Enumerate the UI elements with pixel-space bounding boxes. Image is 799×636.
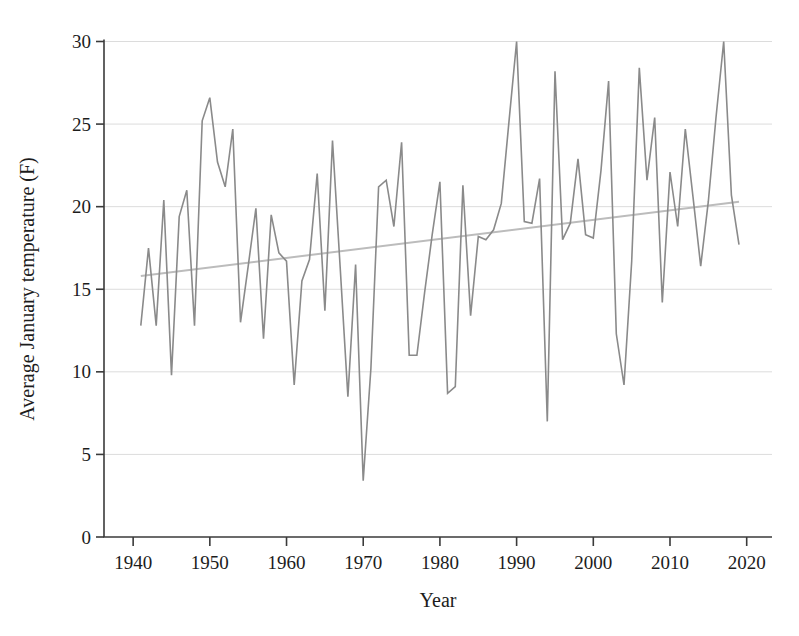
y-axis-title: Average January temperature (F) [16, 157, 39, 420]
temperature-series-line [141, 42, 739, 481]
axes [103, 40, 772, 538]
x-tick-label-1940: 1940 [114, 552, 152, 573]
x-tick-label-2020: 2020 [728, 552, 766, 573]
y-tick-label-15: 15 [72, 279, 91, 300]
x-tick-label-2010: 2010 [651, 552, 689, 573]
x-tick-label-1980: 1980 [421, 552, 459, 573]
x-tick-label-1970: 1970 [344, 552, 382, 573]
y-tick-label-5: 5 [82, 444, 92, 465]
x-tick-label-2000: 2000 [574, 552, 612, 573]
x-tick-label-1960: 1960 [268, 552, 306, 573]
y-tick-label-10: 10 [72, 361, 91, 382]
trend-line [141, 202, 739, 276]
y-tick-label-20: 20 [72, 196, 91, 217]
x-tick-label-1950: 1950 [191, 552, 229, 573]
y-tick-label-25: 25 [72, 114, 91, 135]
axis-ticks [96, 42, 747, 547]
y-tick-label-30: 30 [72, 31, 91, 52]
x-axis-title: Year [420, 589, 457, 611]
x-tick-label-1990: 1990 [498, 552, 536, 573]
y-tick-label-0: 0 [82, 527, 92, 548]
line-chart: 0510152025301940195019601970198019902000… [0, 0, 799, 636]
chart-figure: 0510152025301940195019601970198019902000… [0, 0, 799, 636]
gridlines [104, 42, 772, 455]
